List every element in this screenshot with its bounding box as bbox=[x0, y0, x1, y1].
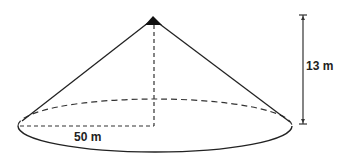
base-ellipse-front bbox=[18, 126, 292, 152]
radius-label: 50 m bbox=[74, 130, 101, 144]
base-ellipse-back bbox=[18, 99, 292, 126]
height-label: 13 m bbox=[306, 59, 333, 73]
apex-marker bbox=[145, 16, 162, 25]
cone-right-side bbox=[153, 19, 290, 122]
cone-diagram: 13 m 50 m bbox=[0, 0, 354, 161]
cone-left-side bbox=[22, 19, 153, 121]
